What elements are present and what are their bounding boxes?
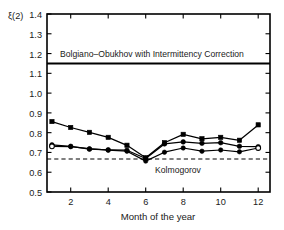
y-tick-label-0_9: 0.9 <box>29 109 42 119</box>
series-b-point-11 <box>237 144 242 149</box>
x-tick-label-2: 2 <box>68 197 73 207</box>
series-a-point-2 <box>69 125 73 129</box>
series-a-point-10 <box>219 135 223 139</box>
x-axis-title: Month of the year <box>121 211 196 222</box>
series-a-point-12 <box>256 123 260 127</box>
series-a-point-9 <box>200 137 204 141</box>
figure-container: ξ(2) 1.4 1.3 1.2 1.1 1.0 0.9 0.8 0.7 0.6… <box>0 0 284 230</box>
series-b-point-7 <box>162 142 167 147</box>
x-tick-label-12: 12 <box>253 197 263 207</box>
y-tick-label-1_3: 1.3 <box>29 30 42 40</box>
series-c-point-5 <box>125 149 129 153</box>
y-tick-label-0_8: 0.8 <box>29 129 42 139</box>
series-b-point-8 <box>181 140 186 145</box>
series-c-point-4 <box>106 148 110 152</box>
series-c-point-2 <box>69 145 73 149</box>
y-tick-label-1_1: 1.1 <box>29 69 42 79</box>
kolmogorov-label: Kolmogorov <box>155 165 202 175</box>
series-b-point-9 <box>200 141 205 146</box>
series-c-point-9 <box>200 149 204 153</box>
y-tick-label-0_6: 0.6 <box>29 168 42 178</box>
y-tick-label-0_5: 0.5 <box>29 188 42 198</box>
chart-canvas: ξ(2) 1.4 1.3 1.2 1.1 1.0 0.9 0.8 0.7 0.6… <box>0 0 284 230</box>
series-c-point-1 <box>50 144 55 149</box>
series-a-point-5 <box>125 143 129 147</box>
y-axis-label: ξ(2) <box>8 11 23 21</box>
x-tick-label-8: 8 <box>181 197 186 207</box>
series-c-point-3 <box>87 147 91 151</box>
series-c-point-10 <box>219 148 223 152</box>
y-tick-label-1_0: 1.0 <box>29 89 42 99</box>
series-a-point-4 <box>106 135 110 139</box>
y-tick-label-1_2: 1.2 <box>29 50 42 60</box>
series-a-point-1 <box>50 119 54 123</box>
series-c-point-6 <box>144 159 148 163</box>
series-a-point-8 <box>181 132 185 136</box>
x-tick-label-4: 4 <box>106 197 111 207</box>
y-tick-label-1_4: 1.4 <box>29 10 42 20</box>
y-tick-label-0_7: 0.7 <box>29 148 42 158</box>
x-tick-label-6: 6 <box>143 197 148 207</box>
x-tick-label-10: 10 <box>216 197 226 207</box>
series-a-point-11 <box>237 138 241 142</box>
series-c-point-12 <box>256 146 261 151</box>
series-b-point-10 <box>218 140 223 145</box>
series-c-point-7 <box>162 150 166 154</box>
series-c-point-8 <box>181 146 185 150</box>
series-a-point-3 <box>87 130 91 134</box>
series-c-point-11 <box>237 150 241 154</box>
bolgiano-obukhov-label: Bolgiano–Obukhov with Intermittency Corr… <box>60 49 244 59</box>
